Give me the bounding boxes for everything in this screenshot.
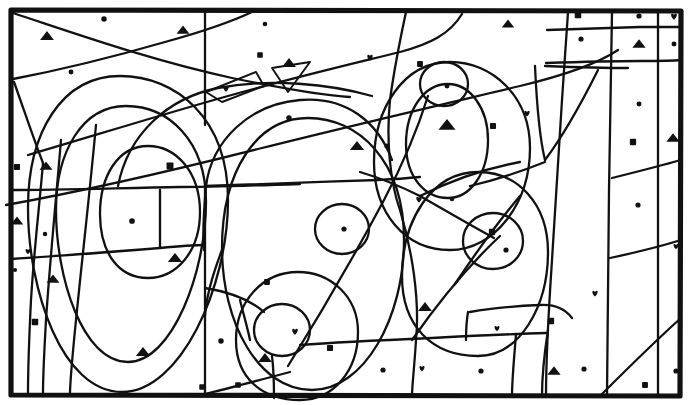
filled-triangle-symbol [168,253,182,262]
filled-circle-symbol [69,70,74,75]
filled-triangle-symbol [632,39,645,48]
filled-triangle-symbol [418,302,432,311]
filled-triangle-symbol [40,161,53,169]
filled-circle-symbol [636,13,641,18]
geometric-region-figure [0,0,690,405]
filled-square-symbol [264,279,270,285]
filled-triangle-symbol [502,20,514,28]
left-middle-oval [56,106,206,362]
filled-square-symbol [257,52,263,58]
filled-circle-symbol [637,102,642,107]
filled-circle-symbol [263,22,268,27]
filled-square-symbol [575,12,581,18]
filled-heart-symbol [26,249,31,254]
filled-square-symbol [489,229,495,235]
filled-circle-symbol [578,36,583,41]
filled-heart-symbol [416,197,421,203]
filled-triangle-symbol [40,31,54,40]
filled-square-symbol [32,319,38,325]
right-diagonal-band [610,160,681,258]
filled-square-symbol [490,123,496,129]
filled-circle-symbol [581,366,586,371]
filled-heart-symbol [292,329,298,335]
filled-square-symbol [417,61,423,67]
filled-square-symbol [642,382,648,388]
filled-heart-symbol [674,244,679,249]
filled-circle-symbol [380,367,385,372]
filled-circle-symbol [478,368,483,373]
filled-heart-symbol [495,326,500,331]
filled-square-symbol [235,382,241,388]
top-center-wedge [206,72,264,102]
filled-square-symbol [548,318,554,324]
filled-circle-symbol [43,232,47,236]
top-left-line-group [13,12,350,163]
center-upper-dome [118,83,392,186]
center-large-oval [222,118,404,390]
filled-square-symbol [167,163,174,170]
filled-circle-symbol [286,115,291,120]
filled-triangle-symbol [136,347,150,356]
bottom-right-panels [300,236,572,396]
filled-circle-symbol [673,368,678,373]
bottom-right-diagonal [602,318,681,394]
filled-circle-symbol [450,197,454,201]
filled-triangle-symbol [547,366,560,375]
filled-square-symbol [14,164,20,170]
filled-square-symbol [630,139,636,145]
filled-circle-symbol [384,143,389,148]
filled-circle-symbol [445,84,450,89]
filled-triangle-symbol [438,119,455,130]
right-columns [545,12,681,396]
drawing-canvas [0,0,690,405]
filled-circle-symbol [635,202,640,207]
filled-triangle-symbol [350,141,364,150]
filled-circle-symbol [672,42,677,47]
filled-circle-symbol [101,16,106,21]
filled-circle-symbol [129,218,135,224]
filled-heart-symbol [671,14,677,20]
filled-circle-symbol [503,247,508,252]
filled-circle-symbol [218,338,223,343]
left-inner-oval [100,146,200,278]
filled-triangle-symbol [282,58,296,67]
filled-triangle-symbol [177,25,190,33]
filled-heart-symbol [419,366,424,372]
filled-circle-symbol [13,268,17,272]
filled-square-symbol [327,345,333,351]
filled-heart-symbol [592,291,597,297]
filled-square-symbol [199,384,204,389]
filled-triangle-symbol [666,133,679,142]
filled-circle-symbol [341,226,346,231]
